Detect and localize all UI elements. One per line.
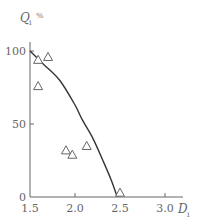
y-axis-title-subscript: i <box>29 18 32 27</box>
x-tick-label: 2.0 <box>66 202 84 215</box>
triangle-marker-icon <box>116 188 125 196</box>
y-tick-label: 100 <box>5 45 26 58</box>
triangle-marker-icon <box>44 52 53 60</box>
triangle-marker-icon <box>34 82 43 90</box>
triangle-marker-icon <box>62 146 71 154</box>
x-tick-label: 3.0 <box>156 202 174 215</box>
x-axis-title-subscript: i <box>187 210 190 219</box>
chart: 050100 Q i % 1.52.02.53.0 D i <box>0 0 206 224</box>
x-tick-label: 2.5 <box>111 202 129 215</box>
x-axis: 1.52.02.53.0 D i <box>21 193 190 219</box>
y-tick-label: 50 <box>12 118 26 131</box>
y-axis: 050100 Q i % <box>5 11 44 204</box>
x-tick-label: 1.5 <box>21 202 39 215</box>
triangle-marker-icon <box>82 141 91 149</box>
y-axis-unit: % <box>36 11 44 20</box>
fitted-curve <box>30 51 117 197</box>
data-markers <box>34 52 125 196</box>
